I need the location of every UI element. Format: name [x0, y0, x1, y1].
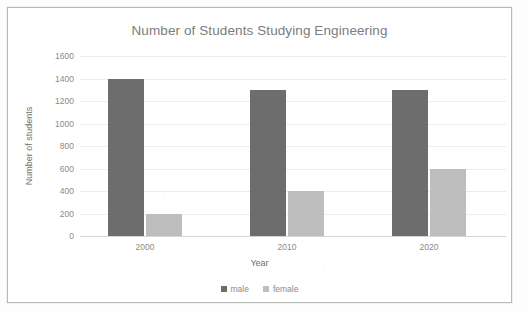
chart-frame: Number of Students Studying Engineering … [7, 7, 512, 303]
y-axis-tick-label: 1000 [36, 119, 74, 129]
y-axis-title: Number of students [22, 56, 36, 236]
plot-area: 1600140012001000800600400200020002010202… [80, 56, 506, 236]
bar-group [108, 56, 182, 236]
y-axis-tick-label: 200 [36, 209, 74, 219]
bar-female-2000[interactable] [146, 214, 182, 237]
y-axis-title-label: Number of students [24, 107, 34, 186]
scanned-page: Number of Students Studying Engineering … [0, 0, 527, 313]
bar-male-2010[interactable] [250, 90, 286, 236]
legend-swatch-icon [263, 286, 269, 292]
y-axis-tick-label: 600 [36, 164, 74, 174]
y-axis-tick-label: 800 [36, 141, 74, 151]
x-axis-tick-label: 2000 [108, 242, 182, 252]
x-axis-title: Year [8, 258, 511, 268]
y-axis-tick-label: 1400 [36, 74, 74, 84]
chart-title: Number of Students Studying Engineering [8, 23, 511, 38]
gridline [80, 236, 506, 237]
legend-label: male [231, 284, 249, 294]
legend-label: female [273, 284, 299, 294]
legend-swatch-icon [221, 286, 227, 292]
y-axis-tick-label: 1200 [36, 96, 74, 106]
bar-male-2000[interactable] [108, 79, 144, 237]
bar-female-2020[interactable] [430, 169, 466, 237]
y-axis-tick-label: 400 [36, 186, 74, 196]
y-axis-tick-label: 0 [36, 231, 74, 241]
x-axis-tick-label: 2010 [250, 242, 324, 252]
bar-group [392, 56, 466, 236]
bar-female-2010[interactable] [288, 191, 324, 236]
bar-group [250, 56, 324, 236]
bar-male-2020[interactable] [392, 90, 428, 236]
legend-item-female[interactable]: female [263, 284, 299, 294]
legend-item-male[interactable]: male [221, 284, 249, 294]
chart-legend: malefemale [8, 284, 511, 294]
y-axis-tick-label: 1600 [36, 51, 74, 61]
x-axis-tick-label: 2020 [392, 242, 466, 252]
